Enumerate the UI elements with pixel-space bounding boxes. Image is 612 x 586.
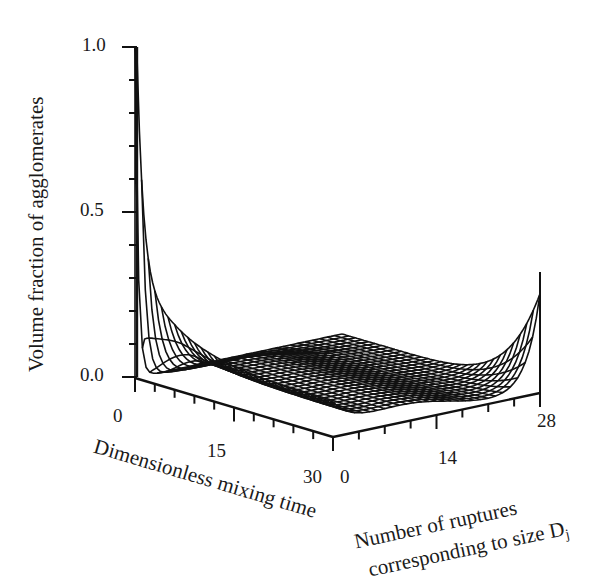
mesh-line-const-time — [142, 180, 349, 373]
z-tick-label-0.0: 0.0 — [80, 364, 104, 386]
y-tick-label-28: 28 — [537, 410, 556, 432]
y-tick-label-14: 14 — [438, 447, 457, 469]
z-tick-label-0.5: 0.5 — [80, 199, 104, 221]
z-tick-label-1.0: 1.0 — [82, 34, 106, 56]
x-tick-label-0: 0 — [113, 405, 123, 427]
x-tick-label-15: 15 — [207, 440, 226, 462]
z-axis-title: Volume fraction of agglomerates — [24, 97, 49, 372]
wireframe-surface — [135, 48, 540, 413]
y-tick-label-0: 0 — [340, 466, 350, 488]
x-tick-label-30: 30 — [303, 466, 322, 488]
plot-axes — [122, 47, 540, 451]
mesh-line-const-time — [135, 48, 342, 373]
